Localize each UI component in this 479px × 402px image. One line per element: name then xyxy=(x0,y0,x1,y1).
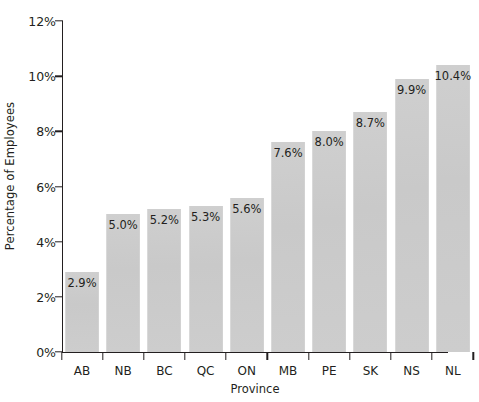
y-axis-tick-label: 12% xyxy=(16,14,56,29)
y-axis-tick-mark xyxy=(55,20,63,21)
bar-value-label: 5.0% xyxy=(109,218,138,232)
bar-on[interactable]: 5.6% xyxy=(230,198,264,352)
bar-pe[interactable]: 8.0% xyxy=(312,131,346,352)
bar-value-label: 5.6% xyxy=(232,202,261,216)
x-axis-tick-mark xyxy=(308,352,309,360)
bar-qc[interactable]: 5.3% xyxy=(189,206,223,352)
bar-value-label: 7.6% xyxy=(273,146,302,160)
y-axis-tick-label: 8% xyxy=(16,124,56,139)
y-axis-tick-label: 0% xyxy=(16,345,56,360)
y-axis-tick-labels: 0%2%4%6%8%10%12% xyxy=(14,0,56,402)
bar-nb[interactable]: 5.0% xyxy=(106,214,140,352)
bar-value-label: 2.9% xyxy=(67,276,96,290)
bar-value-label: 5.2% xyxy=(150,213,179,227)
x-axis-tick-mark xyxy=(267,352,268,360)
y-axis-tick-mark xyxy=(55,296,63,297)
bar-nl[interactable]: 10.4% xyxy=(436,65,470,352)
x-axis-tick-mark xyxy=(225,352,226,360)
bar-bc[interactable]: 5.2% xyxy=(147,209,181,352)
y-axis-tick-mark xyxy=(55,75,63,76)
y-axis-tick-label: 10% xyxy=(16,69,56,84)
y-axis-tick-mark xyxy=(55,131,63,132)
plot-area: 2.9%5.0%5.2%5.3%5.6%7.6%8.0%8.7%9.9%10.4… xyxy=(62,21,448,352)
y-axis-tick-label: 4% xyxy=(16,234,56,249)
bar-value-label: 9.9% xyxy=(397,83,426,97)
x-axis-tick-mark xyxy=(143,352,144,360)
y-axis-tick-label: 6% xyxy=(16,179,56,194)
bar-ns[interactable]: 9.9% xyxy=(395,79,429,352)
bar-value-label: 8.0% xyxy=(315,135,344,149)
x-axis-tick-mark xyxy=(431,352,432,360)
x-axis-title: Province xyxy=(62,382,448,396)
bar-value-label: 5.3% xyxy=(191,210,220,224)
bar-value-label: 10.4% xyxy=(435,69,472,83)
x-axis-tick-mark xyxy=(184,352,185,360)
x-axis-tick-mark xyxy=(390,352,391,360)
x-axis-tick-mark xyxy=(61,352,62,360)
y-axis-tick-mark xyxy=(55,186,63,187)
y-axis-tick-label: 2% xyxy=(16,289,56,304)
bar-mb[interactable]: 7.6% xyxy=(271,142,305,352)
bar-value-label: 8.7% xyxy=(356,116,385,130)
x-axis-tick-mark xyxy=(349,352,350,360)
bar-sk[interactable]: 8.7% xyxy=(353,112,387,352)
x-axis-tick-label: NL xyxy=(423,364,479,378)
x-axis-tick-mark xyxy=(102,352,103,360)
x-axis-tick-mark xyxy=(473,352,474,360)
bar-ab[interactable]: 2.9% xyxy=(65,272,99,352)
y-axis-tick-mark xyxy=(55,241,63,242)
